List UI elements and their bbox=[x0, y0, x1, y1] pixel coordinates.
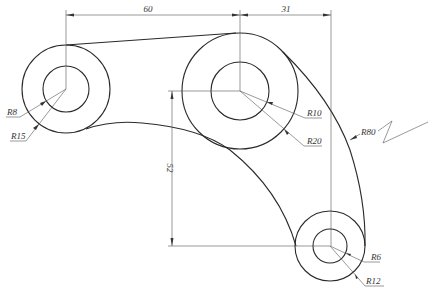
leader-r12 bbox=[330, 246, 365, 286]
arrow-31-left bbox=[240, 14, 248, 17]
dimension-label-52: 52 bbox=[165, 164, 175, 174]
arrow-52-bottom bbox=[171, 238, 174, 246]
mechanical-drawing: 60 31 52 R8 R15 R10 R20 R80 R6 R12 bbox=[0, 0, 432, 296]
label-r6: R6 bbox=[370, 252, 381, 262]
arrow-60-left bbox=[66, 14, 74, 17]
arrow-r12 bbox=[355, 274, 358, 279]
dimension-label-31: 31 bbox=[281, 4, 291, 14]
inner-connecting-arc bbox=[86, 122, 296, 246]
label-r8: R8 bbox=[6, 107, 17, 117]
label-r12: R12 bbox=[365, 276, 381, 286]
outer-r80-arc bbox=[283, 52, 365, 246]
arrow-r15 bbox=[33, 124, 39, 130]
label-r15: R15 bbox=[10, 131, 26, 141]
arrow-52-top bbox=[171, 91, 174, 99]
arrow-r20 bbox=[284, 129, 289, 135]
arrow-r10 bbox=[267, 102, 273, 105]
arrow-60-right bbox=[232, 14, 240, 17]
label-r80: R80 bbox=[360, 127, 376, 137]
label-r10: R10 bbox=[306, 108, 322, 118]
dimension-label-60: 60 bbox=[144, 4, 154, 14]
arrow-r80 bbox=[350, 135, 357, 140]
label-r20: R20 bbox=[306, 136, 322, 146]
arrow-r8 bbox=[40, 101, 46, 106]
r80-break-symbol bbox=[378, 121, 428, 143]
leader-r15 bbox=[26, 89, 66, 141]
arrow-31-right bbox=[323, 14, 331, 17]
top-tangent-line bbox=[66, 33, 236, 45]
leader-r10 bbox=[240, 91, 305, 118]
